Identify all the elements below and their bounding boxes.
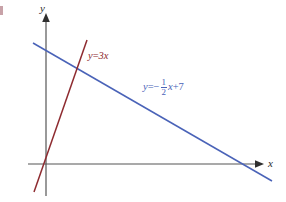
equation-2-minus: − xyxy=(154,81,160,92)
equation-1-expression: 3x xyxy=(99,50,109,61)
equation-2-intercept: 7 xyxy=(179,81,184,92)
y-axis-arrowhead xyxy=(42,13,50,22)
x-axis-arrowhead xyxy=(255,160,264,168)
fraction-denominator: 2 xyxy=(161,87,168,97)
line-negative-half-x-plus-7 xyxy=(33,43,272,181)
coordinate-plane xyxy=(0,0,286,202)
fraction-one-half: 12 xyxy=(161,78,168,97)
x-axis-label: x xyxy=(268,158,273,169)
fraction-numerator: 1 xyxy=(161,78,168,87)
graph-figure: y x y=3x y=−12x+7 xyxy=(0,0,286,202)
equation-label-line-3x: y=3x xyxy=(88,50,109,61)
line-3x xyxy=(34,40,87,192)
equation-label-line-half-x-plus-7: y=−12x+7 xyxy=(143,78,184,97)
y-axis-label: y xyxy=(40,3,45,14)
